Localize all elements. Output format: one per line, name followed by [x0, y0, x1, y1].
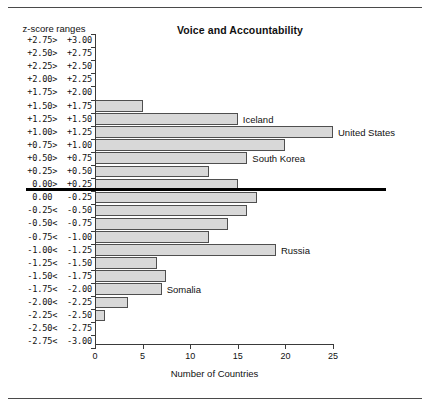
- row-label: +0.50> +0.75: [6, 152, 92, 165]
- annotation-united-states: United States: [338, 127, 395, 138]
- y-axis-tick: [91, 113, 95, 114]
- row-label: +2.50> +2.75: [6, 47, 92, 60]
- bar: [95, 270, 166, 282]
- histogram-row: +0.75> +1.00: [0, 139, 430, 152]
- histogram-row: -2.75< -3.00: [0, 335, 430, 348]
- y-axis-tick: [91, 191, 95, 192]
- bar: [95, 283, 162, 295]
- histogram-row: +2.25> +2.50: [0, 60, 430, 73]
- y-axis-tick: [91, 126, 95, 127]
- x-axis-tick-label: 20: [273, 351, 297, 361]
- row-label: -2.00< -2.25: [6, 296, 92, 309]
- row-label: -2.25< -2.50: [6, 309, 92, 322]
- row-label: +2.75> +3.00: [6, 34, 92, 47]
- bar: [95, 257, 157, 269]
- y-axis-tick: [91, 309, 95, 310]
- histogram-row: -1.75< -2.00: [0, 283, 430, 296]
- histogram-row: -2.50< -2.75: [0, 322, 430, 335]
- bar: [95, 113, 238, 125]
- row-label: -0.25< -0.50: [6, 204, 92, 217]
- y-axis-tick: [91, 335, 95, 336]
- histogram-row: +1.25> +1.50: [0, 113, 430, 126]
- histogram-row: -1.00< -1.25: [0, 244, 430, 257]
- row-label: +2.00> +2.25: [6, 73, 92, 86]
- y-axis-tick: [91, 283, 95, 284]
- y-axis-tick: [91, 34, 95, 35]
- histogram-row: +2.75> +3.00: [0, 34, 430, 47]
- bar: [95, 231, 209, 243]
- y-axis-tick: [91, 47, 95, 48]
- annotation-somalia: Somalia: [167, 284, 201, 295]
- histogram-row: +2.00> +2.25: [0, 73, 430, 86]
- x-axis-tick-label: 0: [83, 351, 107, 361]
- histogram-row: -0.50< -0.75: [0, 217, 430, 230]
- x-axis-tick: [143, 345, 144, 349]
- y-axis-tick: [91, 178, 95, 179]
- bar: [95, 297, 128, 309]
- y-axis-tick: [91, 86, 95, 87]
- histogram-row: +2.50> +2.75: [0, 47, 430, 60]
- y-axis-tick: [91, 139, 95, 140]
- x-axis-title: Number of Countries: [95, 368, 334, 379]
- y-axis-tick: [91, 73, 95, 74]
- row-label: -1.25< -1.50: [6, 257, 92, 270]
- y-axis-tick: [91, 204, 95, 205]
- bar: [95, 310, 105, 322]
- y-axis-tick: [91, 244, 95, 245]
- row-label: -0.50< -0.75: [6, 217, 92, 230]
- histogram-row: -1.25< -1.50: [0, 257, 430, 270]
- row-label: +0.25> +0.50: [6, 165, 92, 178]
- x-axis-tick: [333, 345, 334, 349]
- row-label: +0.75> +1.00: [6, 139, 92, 152]
- y-axis-tick: [91, 60, 95, 61]
- row-label: 0.00 -0.25: [6, 191, 92, 204]
- annotation-iceland: Iceland: [243, 114, 274, 125]
- row-label: +1.50> +1.75: [6, 100, 92, 113]
- row-label: -0.75< -1.00: [6, 231, 92, 244]
- histogram-row: -0.25< -0.50: [0, 204, 430, 217]
- histogram-row: +0.50> +0.75: [0, 152, 430, 165]
- x-axis-tick: [238, 345, 239, 349]
- histogram-row: -0.75< -1.00: [0, 231, 430, 244]
- histogram-plot: +2.75> +3.00+2.50> +2.75+2.25> +2.50+2.0…: [0, 0, 430, 409]
- bar: [95, 139, 285, 151]
- x-axis-tick: [285, 345, 286, 349]
- annotation-south-korea: South Korea: [252, 153, 305, 164]
- y-axis-tick: [91, 152, 95, 153]
- y-axis-tick: [91, 296, 95, 297]
- bar: [95, 244, 276, 256]
- bar: [95, 192, 257, 204]
- row-label: -1.50< -1.75: [6, 270, 92, 283]
- histogram-row: -2.25< -2.50: [0, 309, 430, 322]
- y-axis-tick: [91, 100, 95, 101]
- x-axis-tick-label: 5: [131, 351, 155, 361]
- x-axis-line: [95, 344, 334, 345]
- y-axis-tick: [91, 322, 95, 323]
- row-label: -1.00< -1.25: [6, 244, 92, 257]
- x-axis-tick-label: 15: [226, 351, 250, 361]
- histogram-row: +1.75> +2.00: [0, 86, 430, 99]
- row-label: +1.75> +2.00: [6, 86, 92, 99]
- zero-threshold-divider: [26, 188, 386, 191]
- bar: [95, 126, 333, 138]
- bar: [95, 152, 247, 164]
- histogram-row: 0.00 -0.25: [0, 191, 430, 204]
- x-axis-tick-label: 25: [321, 351, 345, 361]
- bar: [95, 218, 228, 230]
- row-label: +1.00> +1.25: [6, 126, 92, 139]
- histogram-row: +1.50> +1.75: [0, 100, 430, 113]
- bar: [95, 100, 143, 112]
- histogram-row: +0.25> +0.50: [0, 165, 430, 178]
- x-axis-tick-label: 10: [178, 351, 202, 361]
- row-label: +2.25> +2.50: [6, 60, 92, 73]
- row-label: -1.75< -2.00: [6, 283, 92, 296]
- row-label: -2.75< -3.00: [6, 335, 92, 348]
- x-axis-tick: [190, 345, 191, 349]
- bar: [95, 166, 209, 178]
- y-axis-tick: [91, 270, 95, 271]
- bar: [95, 205, 247, 217]
- y-axis-tick: [91, 257, 95, 258]
- y-axis-tick: [91, 165, 95, 166]
- row-label: -2.50< -2.75: [6, 322, 92, 335]
- row-label: +1.25> +1.50: [6, 113, 92, 126]
